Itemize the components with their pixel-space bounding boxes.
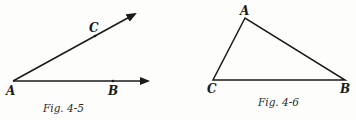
label-b: B — [339, 82, 350, 96]
triangle-abc — [213, 18, 345, 80]
figure-4-5: A C B Fig. 4-5 — [5, 14, 148, 114]
label-a: A — [239, 4, 249, 18]
label-a: A — [5, 84, 15, 98]
label-b: B — [107, 84, 118, 98]
caption-fig-4-5: Fig. 4-5 — [42, 102, 84, 114]
point-c-dot — [94, 35, 97, 38]
caption-fig-4-6: Fig. 4-6 — [257, 96, 299, 108]
point-b-dot — [112, 80, 115, 83]
label-c: C — [207, 82, 217, 96]
label-c: C — [89, 21, 99, 35]
figure-4-6: A C B Fig. 4-6 — [207, 4, 350, 108]
diagram-canvas: A C B Fig. 4-5 A C B Fig. 4-6 — [0, 0, 356, 120]
ray-ac — [13, 14, 135, 81]
